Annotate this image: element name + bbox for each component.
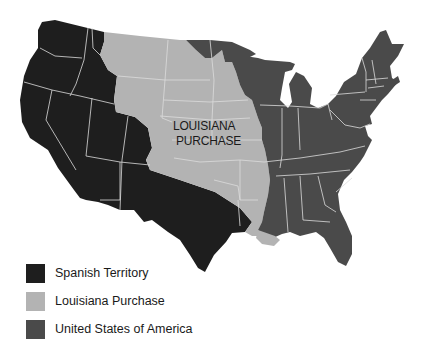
- map-region-label-line2: PURCHASE: [176, 134, 241, 148]
- legend-item-spanish-territory: Spanish Territory: [26, 259, 193, 287]
- legend-item-louisiana-purchase: Louisiana Purchase: [26, 287, 193, 315]
- legend-swatch-louisiana: [26, 292, 45, 311]
- legend-item-united-states: United States of America: [26, 315, 193, 343]
- legend-label: United States of America: [55, 322, 193, 336]
- map-region-label-line1: LOUISIANA: [173, 119, 235, 133]
- legend-label: Louisiana Purchase: [55, 294, 165, 308]
- legend: Spanish Territory Louisiana Purchase Uni…: [26, 259, 193, 343]
- legend-label: Spanish Territory: [55, 266, 149, 280]
- legend-swatch-spanish: [26, 264, 45, 283]
- legend-swatch-usa: [26, 320, 45, 339]
